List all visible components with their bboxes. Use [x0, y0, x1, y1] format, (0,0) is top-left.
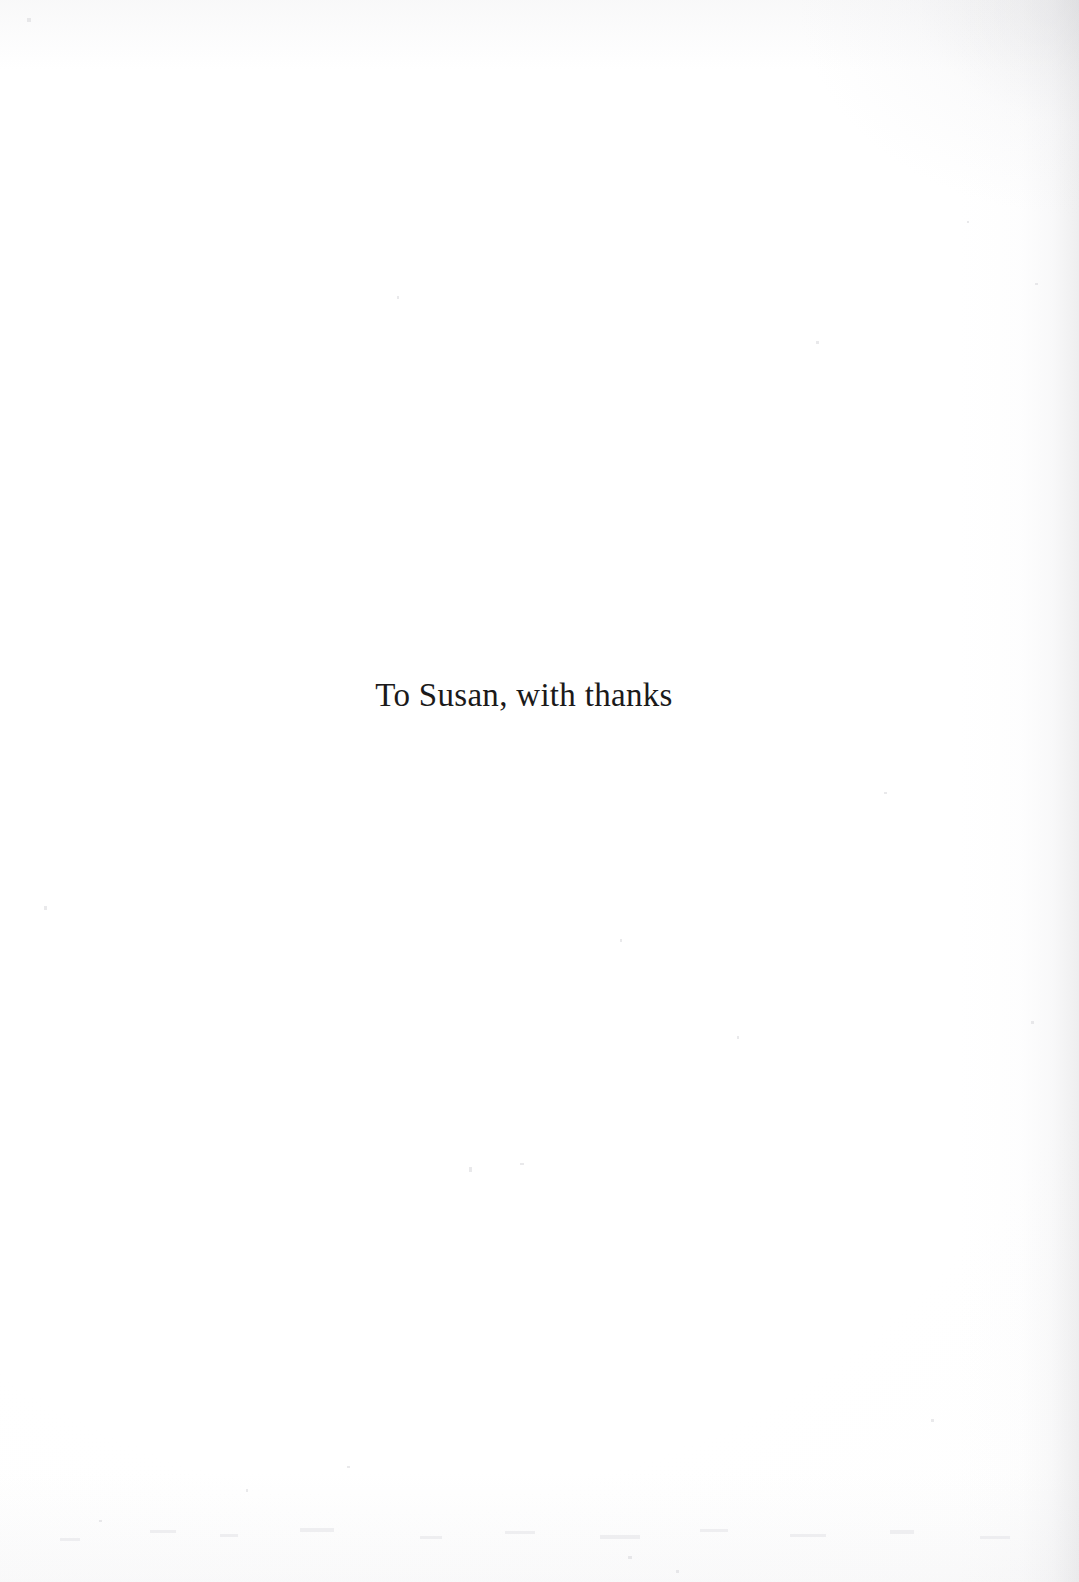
- dedication-page: To Susan, with thanks: [0, 0, 1079, 1582]
- scan-shadow-bottom: [0, 1472, 1079, 1582]
- paper-texture: [0, 0, 1079, 1582]
- scan-shadow-top-right-corner: [779, 0, 1079, 230]
- scan-shadow-top: [0, 0, 1079, 70]
- dedication-block: To Susan, with thanks: [0, 676, 1048, 716]
- scan-shadow-right: [959, 0, 1079, 1582]
- scan-dust-specks: [0, 0, 1079, 1582]
- dedication-text: To Susan, with thanks: [375, 676, 672, 716]
